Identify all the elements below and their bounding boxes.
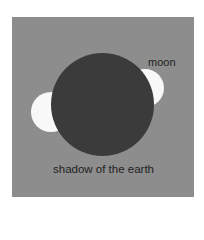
moon-label: moon [148, 56, 176, 68]
earth-shadow-disc [51, 53, 154, 156]
shadow-label: shadow of the earth [53, 163, 154, 175]
